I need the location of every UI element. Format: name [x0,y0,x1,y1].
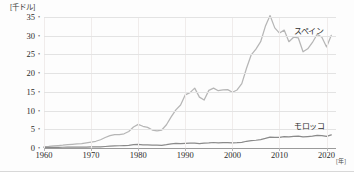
x-axis-tick-mark [91,148,92,151]
y-axis-tick-label: 0 [31,143,35,153]
x-axis-tick-mark [279,148,280,151]
y-axis-tick-mark: • [38,14,40,20]
y-gridline [44,92,336,93]
series-label: モロッコ [294,120,326,131]
y-axis-tick-label: 10 [27,106,36,116]
x-axis-tick-mark [138,148,139,151]
y-gridline [44,73,336,74]
y-gridline [44,148,336,149]
y-axis-tick-label: 20 [27,68,36,78]
line-chart: [千ドル] [年] 0•5•10•15•20•25•30•35•19601970… [0,0,354,172]
x-axis-unit-label: [年] [336,156,346,165]
series-label: スペイン [294,25,325,36]
y-axis-tick-mark: • [38,33,40,39]
plot-area [44,17,336,148]
y-axis-tick-label: 15 [27,87,36,97]
y-axis-tick-mark: • [38,108,40,114]
y-axis-tick-label: 25 [27,49,36,59]
y-gridline [44,36,336,37]
y-axis-unit-label: [千ドル] [10,1,35,12]
x-axis-tick-label: 2010 [271,150,288,160]
x-axis-tick-mark [44,148,45,151]
x-axis-tick-mark [327,148,328,151]
y-axis-tick-mark: • [38,51,40,57]
y-gridline [44,129,336,130]
x-axis-tick-mark [232,148,233,151]
series-line [44,135,331,148]
x-axis-tick-label: 1960 [36,150,53,160]
x-axis-tick-mark [185,148,186,151]
y-axis-tick-label: 30 [27,31,36,41]
y-axis-tick-label: 35 [27,12,36,22]
y-axis-tick-mark: • [38,89,40,95]
x-axis-tick-label: 1970 [83,150,100,160]
y-axis-tick-label: 5 [31,124,35,134]
y-axis-tick-mark: • [38,126,40,132]
x-axis-tick-label: 1980 [130,150,147,160]
x-axis-tick-label: 1990 [177,150,194,160]
y-gridline [44,17,336,18]
y-gridline [44,54,336,55]
y-axis-tick-mark: • [38,70,40,76]
y-gridline [44,111,336,112]
x-axis-tick-label: 2000 [224,150,241,160]
x-axis-tick-label: 2020 [318,150,335,160]
